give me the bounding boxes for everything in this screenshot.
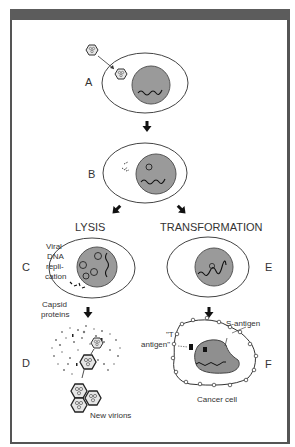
virion-icon <box>86 45 98 55</box>
branch-arrow-right-icon <box>175 203 189 217</box>
nucleus <box>132 66 170 104</box>
virion-icon <box>91 338 103 348</box>
stage-f-label: F <box>265 358 272 370</box>
new-virions-label: New virions <box>90 411 131 420</box>
viral-dna-replication-label: repli- <box>46 262 64 271</box>
down-arrow-icon <box>84 307 93 318</box>
t-antigen-label: antigen" <box>141 340 170 349</box>
capsid-proteins-label: Capsid <box>42 300 67 309</box>
viral-dna-replication-label: DNA <box>47 252 65 261</box>
stage-b-label: B <box>88 168 95 180</box>
stage-d-label: D <box>22 357 30 369</box>
nucleus <box>136 154 176 194</box>
viral-dna-replication-label: cation <box>45 272 66 281</box>
viral-dna-replication-label: Viral <box>46 242 62 251</box>
lysis-heading: LYSIS <box>75 221 105 233</box>
stage-b-cell <box>103 143 187 203</box>
viral-infection-diagram: A B LYSIS TRANSFORMATION C Viral DNA rep… <box>0 0 295 447</box>
stage-c-label: C <box>22 261 30 273</box>
branch-arrow-left-icon <box>109 203 123 217</box>
stage-a-label: A <box>85 76 93 88</box>
transformation-heading: TRANSFORMATION <box>160 221 263 233</box>
t-antigen-label: "T <box>166 330 174 339</box>
new-virion-icon <box>71 398 87 412</box>
stage-a-cell <box>86 45 188 113</box>
virion-icon <box>80 355 96 369</box>
s-antigen-label: S-antigen <box>226 319 260 328</box>
down-arrow-icon <box>143 121 152 132</box>
stage-e-label: E <box>265 261 272 273</box>
new-virion-icon <box>71 384 87 398</box>
virion-icon <box>115 69 127 79</box>
t-antigen-icon <box>189 344 193 350</box>
stage-e-cell <box>167 237 249 297</box>
cancer-cell-label: Cancer cell <box>197 395 237 404</box>
capsid-proteins-label: proteins <box>41 310 69 319</box>
new-virion-icon <box>85 391 101 405</box>
